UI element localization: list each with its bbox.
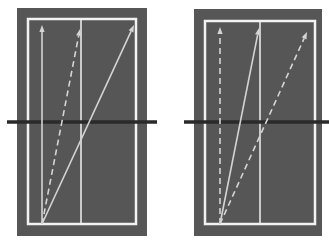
- vector-diagram: [0, 0, 329, 245]
- left-panel: [7, 8, 157, 236]
- right-panel: [184, 9, 329, 236]
